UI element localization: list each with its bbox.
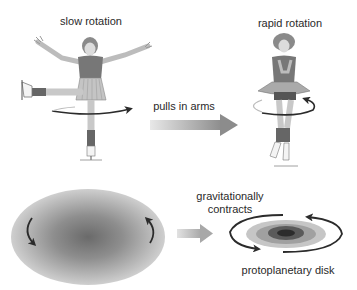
protoplanetary-disk-label: protoplanetary disk bbox=[238, 264, 338, 276]
rapid-rotation-label: rapid rotation bbox=[250, 17, 330, 29]
contracts-label: contracts bbox=[190, 203, 270, 215]
diagram-canvas bbox=[0, 0, 357, 290]
skater-fast-figure bbox=[254, 33, 315, 166]
gravitationally-label: gravitationally bbox=[190, 190, 270, 202]
skater-slow-figure bbox=[22, 36, 152, 160]
gas-cloud bbox=[11, 189, 165, 285]
contracts-arrow bbox=[177, 224, 213, 243]
pulls-in-arms-label: pulls in arms bbox=[150, 100, 218, 112]
slow-rotation-label: slow rotation bbox=[55, 15, 127, 27]
protoplanetary-disk bbox=[230, 215, 342, 252]
pulls-in-arms-arrow bbox=[150, 114, 238, 136]
